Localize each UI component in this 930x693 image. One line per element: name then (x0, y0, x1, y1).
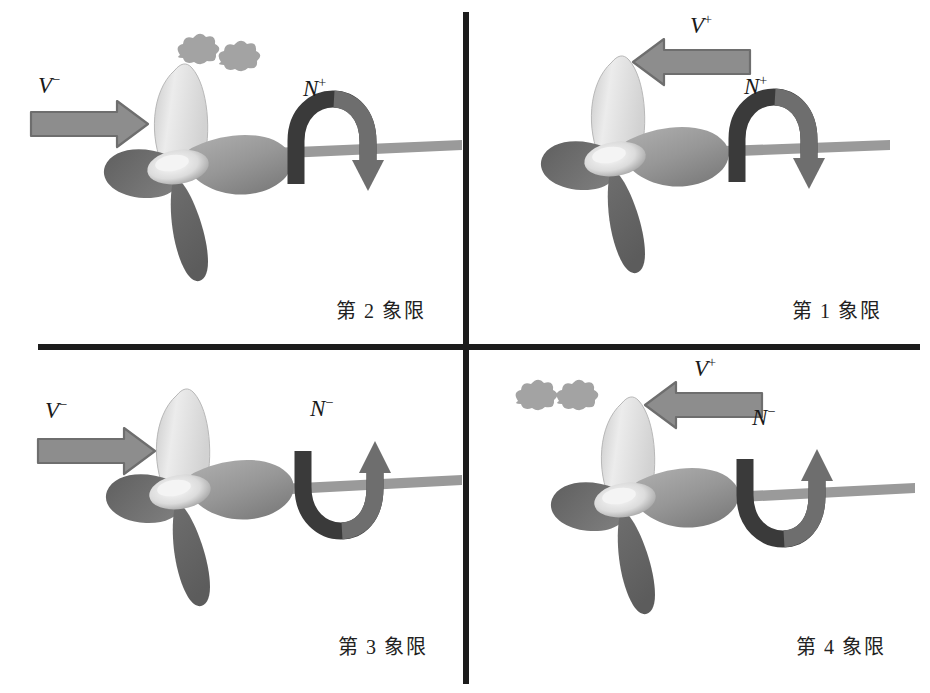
velocity-label-q2: V− (38, 72, 60, 97)
moment-label-q1: N+ (744, 73, 767, 98)
velocity-label-q1: V+ (690, 12, 712, 37)
quadrant-4: V+ N− 第 4 象限 (465, 347, 930, 693)
moment-label-q2: N+ (303, 75, 326, 100)
moment-arrow-positive (737, 97, 825, 189)
velocity-arrow-left (633, 39, 750, 85)
cavitation-bubbles (516, 380, 599, 411)
propeller-blades (106, 389, 294, 606)
four-quadrant-propeller-figure: V− N+ 第 2 象限 (0, 0, 930, 693)
propeller-blades (551, 397, 739, 614)
moment-label-q4: N− (752, 404, 775, 429)
velocity-label-q4: V+ (694, 355, 716, 380)
moment-arrow-positive (296, 99, 384, 191)
propeller-blades (104, 64, 292, 281)
quadrant-caption-q4: 第 4 象限 (796, 631, 885, 660)
velocity-arrow-right (31, 101, 148, 147)
quadrant-caption-q3: 第 3 象限 (338, 631, 427, 660)
moment-label-q3: N− (310, 395, 333, 420)
quadrant-3: V− N− 第 3 象限 (0, 347, 465, 693)
velocity-arrow-right (38, 428, 155, 474)
propeller-blades (541, 56, 729, 273)
quadrant-2: V− N+ 第 2 象限 (0, 0, 465, 346)
quadrant-caption-q2: 第 2 象限 (336, 295, 425, 324)
velocity-label-q3: V− (45, 397, 67, 422)
quadrant-1: V+ N+ 第 1 象限 (465, 0, 930, 346)
quadrant-caption-q1: 第 1 象限 (792, 295, 881, 324)
velocity-arrow-left (645, 382, 762, 428)
